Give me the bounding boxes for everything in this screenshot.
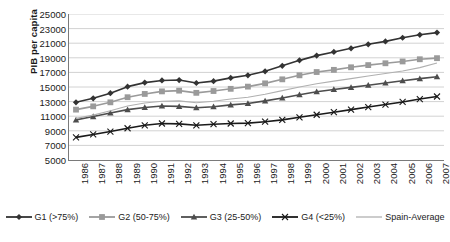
x-axis-tick-label: 1999: [302, 163, 313, 184]
legend-marker-none-icon: [356, 212, 382, 222]
data-point-diamond: [279, 63, 285, 69]
x-axis-tick-label: 1993: [199, 163, 210, 184]
x-axis-tick-label: 1989: [131, 163, 142, 184]
data-point-square: [297, 72, 303, 78]
y-axis-tick-label: 5000: [20, 155, 66, 166]
y-axis-tick-label: 7000: [20, 140, 66, 151]
x-axis-tick-label: 2001: [337, 163, 348, 184]
data-point-square: [125, 94, 131, 100]
x-axis-tick-label: 1988: [113, 163, 124, 184]
legend-marker-square-icon: [89, 212, 115, 222]
x-axis-tick-label: 1998: [285, 163, 296, 184]
legend-item[interactable]: Spain-Average: [356, 212, 444, 222]
chart-container: PIB per capita 5000700090001100013000150…: [0, 0, 450, 242]
data-point-diamond: [331, 49, 337, 55]
y-axis-tick-label: 19000: [20, 52, 66, 63]
data-point-diamond: [348, 45, 354, 51]
x-axis-tick-label: 1996: [251, 163, 262, 184]
data-point-diamond: [73, 99, 79, 105]
data-point-square: [383, 60, 389, 66]
series-g1-75-: [73, 30, 440, 106]
data-point-square: [176, 88, 182, 94]
y-axis-tick-label: 15000: [20, 82, 66, 93]
x-axis-tick-label: 1994: [217, 163, 228, 184]
y-axis-tick-labels: 5000700090001100013000150001700019000210…: [20, 8, 66, 165]
data-point-square: [279, 76, 285, 82]
data-point-square: [400, 59, 406, 65]
data-point-diamond: [245, 72, 251, 78]
chart-legend: G1 (>75%)G2 (50-75%)G3 (25-50%)G4 (<25%)…: [0, 212, 450, 222]
legend-item[interactable]: G4 (<25%): [272, 212, 345, 222]
data-point-diamond: [142, 80, 148, 86]
series-g4-25-: [73, 93, 440, 140]
x-axis-tick-label: 2004: [388, 163, 399, 184]
data-point-square: [193, 90, 199, 96]
data-point-diamond: [210, 78, 216, 84]
x-axis-tick-label: 1997: [268, 163, 279, 184]
x-axis-tick-label: 2006: [423, 163, 434, 184]
data-point-diamond: [176, 77, 182, 83]
legend-item[interactable]: G1 (>75%): [6, 212, 79, 222]
x-axis-tick-label: 2002: [354, 163, 365, 184]
data-point-square: [314, 69, 320, 75]
x-axis-tick-labels: 1986198719881989199019911992199319941995…: [68, 163, 444, 207]
data-point-diamond: [400, 35, 406, 41]
y-axis-tick-label: 23000: [20, 23, 66, 34]
data-point-square: [90, 103, 96, 109]
x-axis-tick-label: 2005: [406, 163, 417, 184]
legend-item[interactable]: G2 (50-75%): [89, 212, 170, 222]
x-axis-tick-label: 1995: [234, 163, 245, 184]
data-point-diamond: [159, 77, 165, 83]
legend-marker-cross-icon: [272, 212, 298, 222]
x-axis-tick-label: 1987: [96, 163, 107, 184]
legend-label: G2 (50-75%): [118, 212, 170, 222]
x-axis-tick-label: 1986: [79, 163, 90, 184]
x-axis-tick-label: 1991: [165, 163, 176, 184]
y-axis-tick-label: 11000: [20, 111, 66, 122]
legend-label: G4 (<25%): [301, 212, 345, 222]
y-axis-tick-label: 25000: [20, 9, 66, 20]
data-point-square: [365, 62, 371, 68]
legend-label: G1 (>75%): [35, 212, 79, 222]
data-point-diamond: [90, 95, 96, 101]
data-point-square: [228, 86, 234, 92]
legend-label: G3 (25-50%): [210, 212, 262, 222]
data-point-diamond: [15, 214, 21, 220]
data-point-diamond: [124, 84, 130, 90]
series-canvas: [69, 14, 444, 160]
plot-area: [68, 14, 444, 161]
y-axis-tick-label: 13000: [20, 96, 66, 107]
data-point-square: [107, 99, 113, 105]
x-axis-tick-label: 2007: [440, 163, 450, 184]
y-axis-tick-label: 9000: [20, 125, 66, 136]
data-point-square: [262, 80, 268, 86]
x-axis-tick-label: 2000: [320, 163, 331, 184]
legend-marker-diamond-icon: [6, 212, 32, 222]
data-point-square: [331, 67, 337, 73]
data-point-diamond: [193, 80, 199, 86]
data-point-square: [245, 84, 251, 90]
legend-label: Spain-Average: [385, 212, 444, 222]
y-axis-tick-label: 17000: [20, 67, 66, 78]
data-point-square: [417, 56, 423, 62]
data-point-square: [99, 214, 105, 220]
x-axis-tick-label: 2003: [371, 163, 382, 184]
data-point-square: [348, 64, 354, 70]
x-axis-tick-label: 1990: [148, 163, 159, 184]
data-point-diamond: [107, 90, 113, 96]
legend-item[interactable]: G3 (25-50%): [181, 212, 262, 222]
data-point-diamond: [417, 32, 423, 38]
y-axis-tick-label: 21000: [20, 38, 66, 49]
data-point-diamond: [228, 75, 234, 81]
data-point-square: [159, 88, 165, 94]
data-point-square: [211, 88, 217, 94]
legend-marker-triangle-icon: [181, 212, 207, 222]
data-point-square: [73, 107, 79, 113]
data-point-diamond: [262, 68, 268, 74]
data-point-diamond: [434, 30, 440, 36]
data-point-square: [142, 91, 148, 97]
data-point-square: [434, 55, 440, 61]
x-axis-tick-label: 1992: [182, 163, 193, 184]
data-point-diamond: [365, 41, 371, 47]
